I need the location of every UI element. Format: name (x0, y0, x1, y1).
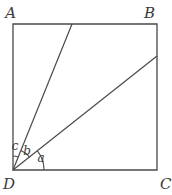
vertex-label-c: C (160, 175, 172, 193)
ray-d-to-top-edge (13, 24, 72, 170)
angle-label-c: c (12, 139, 19, 153)
square-abcd-outline (13, 24, 157, 170)
angle-label-b: b (23, 144, 31, 158)
vertex-label-d: D (2, 175, 15, 193)
geometry-figure: A B C D a b c (0, 0, 172, 195)
figure-canvas: A B C D a b c (0, 0, 172, 195)
angle-arc-c (13, 156, 18, 157)
vertex-label-b: B (143, 4, 155, 22)
vertex-label-a: A (3, 4, 16, 22)
ray-d-to-right-edge (13, 56, 157, 170)
angle-label-a: a (37, 151, 44, 165)
